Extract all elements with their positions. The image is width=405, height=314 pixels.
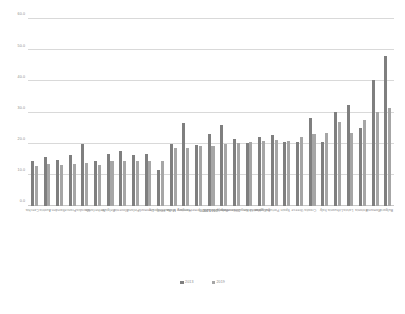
bar xyxy=(195,145,198,206)
bar xyxy=(376,112,379,206)
x-axis-category-label: Spain xyxy=(280,207,289,211)
bar xyxy=(110,161,113,206)
bar xyxy=(246,143,249,206)
bar xyxy=(157,170,160,206)
x-axis-label-cell: Latvia xyxy=(344,207,357,307)
bar xyxy=(161,161,164,206)
plot-area: 0.010.020.030.040.050.060.0 xyxy=(28,19,394,206)
x-axis-category-label: Croatia xyxy=(304,207,316,211)
y-axis-tick-label: 40.0 xyxy=(18,76,25,80)
bar-group xyxy=(41,19,54,206)
bar-group xyxy=(318,19,331,206)
x-axis-category-label: Italy xyxy=(319,207,326,211)
x-axis-label-cell: Slovakia xyxy=(79,207,92,307)
bar-group xyxy=(293,19,306,206)
x-axis-category-label: Slovenia xyxy=(114,207,128,211)
bar xyxy=(384,56,387,206)
x-axis-label-cell: Spain xyxy=(281,207,294,307)
bar xyxy=(233,139,236,206)
bar xyxy=(275,140,278,206)
x-axis-label-cell: Romania xyxy=(369,207,382,307)
bar xyxy=(224,144,227,206)
x-axis-label-cell: Sweden xyxy=(53,207,66,307)
bar xyxy=(60,165,63,206)
bar xyxy=(359,128,362,206)
bar-group xyxy=(142,19,155,206)
x-axis-label-cell: Slovenia xyxy=(116,207,129,307)
bar-group xyxy=(180,19,193,206)
bar xyxy=(334,112,337,206)
bar xyxy=(211,146,214,206)
legend-swatch xyxy=(212,281,215,284)
bar xyxy=(199,146,202,206)
x-axis-category-label: Austria xyxy=(39,207,51,211)
bar-group xyxy=(28,19,41,206)
x-axis-label-cell: Bulgaria xyxy=(382,207,395,307)
bar xyxy=(309,118,312,206)
y-axis-tick-label: 50.0 xyxy=(18,45,25,49)
bar xyxy=(145,154,148,206)
legend-label: 2013 xyxy=(185,281,193,285)
bar-group xyxy=(281,19,294,206)
bar xyxy=(85,163,88,206)
bar xyxy=(321,142,324,206)
bar xyxy=(119,151,122,206)
bar xyxy=(287,141,290,206)
legend-item[interactable]: 2013 xyxy=(180,281,193,285)
bar xyxy=(296,142,299,206)
bar xyxy=(300,137,303,206)
x-axis-label-cell: European Union - 28 countries (2013-2020… xyxy=(230,207,243,307)
bar-chart: 0.010.020.030.040.050.060.0 CzechiaAustr… xyxy=(0,0,405,314)
bar-group xyxy=(255,19,268,206)
bar xyxy=(170,144,173,206)
x-axis-label-cell: Italy xyxy=(318,207,331,307)
x-axis-label-cell: Estonia xyxy=(356,207,369,307)
x-axis-label-cell: Denmark xyxy=(142,207,155,307)
bar-group xyxy=(167,19,180,206)
x-axis-category-label: Greece xyxy=(292,207,304,211)
bar xyxy=(186,148,189,206)
bar xyxy=(338,122,341,206)
bar xyxy=(148,161,151,206)
bar xyxy=(283,142,286,207)
bar xyxy=(123,161,126,206)
bar xyxy=(69,155,72,206)
bar xyxy=(136,161,139,206)
bar xyxy=(174,148,177,206)
bar xyxy=(237,143,240,206)
x-axis-category-label: Czechia xyxy=(26,207,39,211)
bar-group xyxy=(53,19,66,206)
legend-item[interactable]: 2019 xyxy=(212,281,225,285)
bar-group xyxy=(243,19,256,206)
bar xyxy=(73,164,76,206)
y-axis-tick-label: 20.0 xyxy=(18,138,25,142)
legend-label: 2019 xyxy=(216,281,224,285)
x-axis-label-cell: Belgium xyxy=(104,207,117,307)
x-axis-label-cell: Finland xyxy=(129,207,142,307)
x-axis-label-cell: Greece xyxy=(293,207,306,307)
bar-group xyxy=(91,19,104,206)
x-axis-label-cell: Hungary xyxy=(180,207,193,307)
x-axis-label-cell: Czechia xyxy=(28,207,41,307)
bar-group xyxy=(268,19,281,206)
bar-group xyxy=(369,19,382,206)
chart-legend: 20132019 xyxy=(0,281,405,285)
bar-group xyxy=(306,19,319,206)
bar-group xyxy=(154,19,167,206)
x-axis-label-cell: Poland xyxy=(217,207,230,307)
bar xyxy=(262,141,265,206)
bar-group xyxy=(331,19,344,206)
x-axis-label-cell: Malta xyxy=(167,207,180,307)
bar xyxy=(350,133,353,206)
bar-group xyxy=(104,19,117,206)
bar xyxy=(258,137,261,206)
bar xyxy=(107,154,110,206)
x-axis-category-label: Sweden xyxy=(51,207,64,211)
bar xyxy=(363,120,366,206)
bar-group xyxy=(116,19,129,206)
bar xyxy=(35,166,38,206)
x-axis-category-label: Bulgaria xyxy=(379,207,393,211)
x-axis-category-label: Lithuania xyxy=(328,207,343,211)
bar-group xyxy=(79,19,92,206)
bar-group xyxy=(129,19,142,206)
